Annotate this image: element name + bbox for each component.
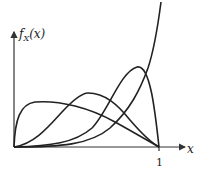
curve-mid-hump (14, 93, 159, 147)
curve-j-shaped (14, 2, 161, 147)
y-axis-label: fX(x) (19, 27, 45, 43)
x-axis-label: x (187, 142, 194, 156)
x-tick-label-one: 1 (156, 156, 163, 169)
